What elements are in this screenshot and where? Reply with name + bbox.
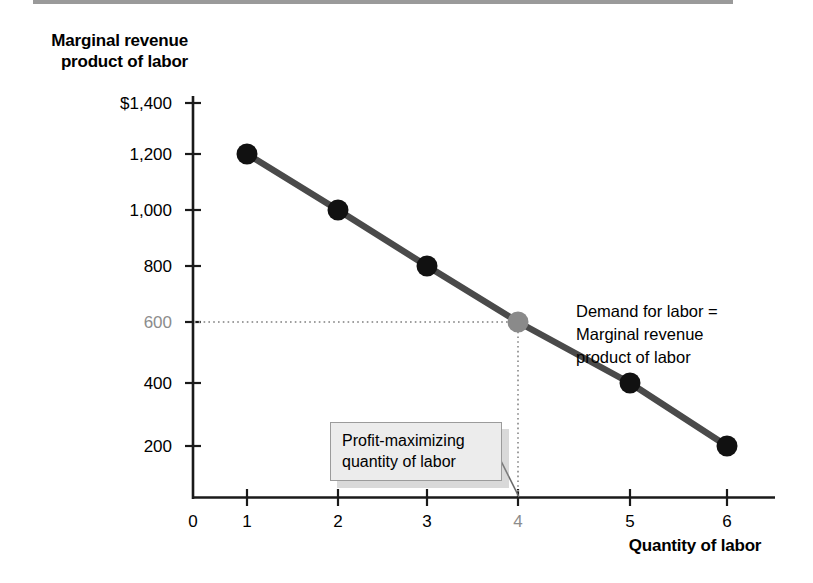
data-point-q1 (237, 144, 258, 165)
y-axis-title-line1: Marginal revenue (51, 31, 188, 50)
data-point-q6 (717, 436, 738, 457)
callout-line2: quantity of labor (342, 451, 491, 472)
x-tick-label-6: 6 (707, 513, 747, 530)
x-tick-label-5: 5 (610, 513, 650, 530)
x-tick-label-4: 4 (498, 513, 538, 530)
demand-curve-label-line3: product of labor (576, 346, 806, 369)
x-tick-label-1: 1 (227, 513, 267, 530)
y-tick-label-400: 400 (62, 375, 172, 392)
y-axis-title-line2: product of labor (18, 51, 188, 72)
y-tick-label-1200: 1,200 (62, 146, 172, 163)
x-axis-title: Quantity of labor (600, 536, 790, 556)
data-point-q3 (417, 256, 438, 277)
y-axis-title: Marginal revenue product of labor (18, 30, 188, 72)
data-point-q5 (620, 373, 641, 394)
x-tick-label-0: 0 (173, 513, 213, 530)
y-tick-label-1400: $1,400 (62, 95, 172, 112)
data-point-q2 (328, 200, 349, 221)
y-tick-label-200: 200 (62, 438, 172, 455)
y-tick-label-800: 800 (62, 258, 172, 275)
data-point-q4-highlight (508, 312, 529, 333)
profit-maximizing-callout: Profit-maximizing quantity of labor (330, 422, 502, 481)
x-tick-label-2: 2 (318, 513, 358, 530)
demand-curve-label-line1: Demand for labor = (576, 300, 806, 323)
figure-mrp-of-labor-chart: Marginal revenue product of labor $1,400… (0, 0, 813, 583)
demand-curve-label: Demand for labor = Marginal revenue prod… (576, 300, 806, 369)
y-tick-label-600: 600 (62, 314, 172, 331)
demand-curve-label-line2: Marginal revenue (576, 323, 806, 346)
y-tick-label-1000: 1,000 (62, 202, 172, 219)
chart-canvas (0, 0, 813, 583)
callout-line1: Profit-maximizing (342, 430, 491, 451)
x-tick-label-3: 3 (407, 513, 447, 530)
